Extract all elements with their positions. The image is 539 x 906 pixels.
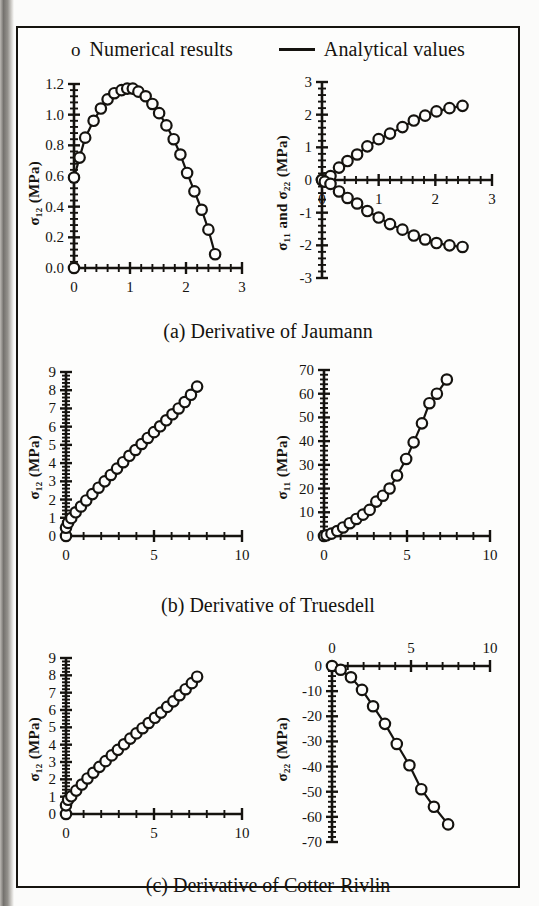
- x-tick-label: 0: [62, 547, 70, 563]
- data-point-marker: [442, 374, 452, 384]
- x-tick-label: 2: [432, 191, 440, 207]
- y-tick-label: 0: [315, 658, 323, 674]
- chart-panel-a-right: σ₁₁ and σ₂₂ (MPa) -3-2-101230123: [270, 66, 518, 320]
- data-point-marker: [362, 206, 372, 216]
- plot-a-left: 0.00.20.40.60.81.01.20123: [40, 66, 252, 324]
- x-tick-label: 5: [407, 640, 415, 656]
- data-point-marker: [392, 470, 402, 480]
- y-tick-label: 4: [49, 737, 57, 753]
- data-point-marker: [182, 168, 192, 178]
- y-tick-label: 2: [305, 107, 313, 123]
- y-tick-label: -30: [302, 733, 322, 749]
- data-point-marker: [352, 149, 362, 159]
- legend-entry-analytical: Analytical values: [279, 38, 465, 61]
- data-point-marker: [154, 108, 164, 118]
- y-tick-label: 20: [299, 481, 314, 497]
- figure-frame: o Numerical results Analytical values σ₁…: [16, 26, 520, 888]
- y-tick-label: 8: [49, 667, 57, 683]
- y-tick-label: 9: [49, 650, 57, 666]
- plot-b-left: 01234567890510: [40, 340, 252, 598]
- y-tick-label: 4: [49, 455, 57, 471]
- solid-line-marker-icon: [279, 48, 315, 51]
- x-tick-label: 10: [483, 640, 498, 656]
- y-tick-label: 0.2: [45, 229, 64, 245]
- plot-a-right: -3-2-101230123: [288, 66, 500, 324]
- data-point-marker: [368, 701, 378, 711]
- y-tick-label: -50: [302, 784, 322, 800]
- data-point-marker: [380, 719, 390, 729]
- data-point-marker: [397, 122, 407, 132]
- data-point-marker: [342, 156, 352, 166]
- y-tick-label: -3: [300, 270, 313, 286]
- x-tick-label: 5: [150, 547, 158, 563]
- y-tick-label: 1.2: [45, 76, 64, 92]
- y-tick-label: 0: [305, 172, 313, 188]
- data-point-marker: [384, 483, 394, 493]
- x-tick-label: 10: [483, 547, 498, 563]
- data-point-marker: [401, 454, 411, 464]
- data-point-marker: [335, 665, 345, 675]
- chart-svg-c-left: 01234567890510: [40, 622, 252, 876]
- plot-b-right: 0102030405060700510: [288, 340, 500, 598]
- data-point-marker: [352, 198, 362, 208]
- x-tick-label: 0: [62, 825, 70, 841]
- panel-row-a: σ₁₂ (MPa) 0.00.20.40.60.81.01.20123 σ₁₁ …: [18, 66, 518, 320]
- y-tick-label: -1: [300, 205, 313, 221]
- x-tick-label: 3: [238, 279, 246, 295]
- scan-edge-artifact: [0, 0, 14, 906]
- y-tick-label: 5: [49, 437, 57, 453]
- y-tick-label: 0.4: [45, 199, 64, 215]
- chart-panel-c-left: σ₁₂ (MPa) 01234567890510: [22, 622, 270, 876]
- data-point-marker: [362, 141, 372, 151]
- y-tick-label: -20: [302, 708, 322, 724]
- panel-row-b: σ₁₂ (MPa) 01234567890510 σ₁₁ (MPa) 01020…: [18, 340, 518, 594]
- x-tick-label: 10: [235, 825, 250, 841]
- chart-panel-b-left: σ₁₂ (MPa) 01234567890510: [22, 340, 270, 594]
- x-tick-label: 1: [375, 191, 383, 207]
- data-point-marker: [409, 115, 419, 125]
- y-tick-label: 1: [305, 139, 313, 155]
- x-tick-label: 5: [150, 825, 158, 841]
- y-tick-label: 70: [299, 362, 314, 378]
- caption-b: (b) Derivative of Truesdell: [18, 594, 518, 617]
- data-point-marker: [420, 234, 430, 244]
- data-point-marker: [431, 238, 441, 248]
- chart-panel-a-left: σ₁₂ (MPa) 0.00.20.40.60.81.01.20123: [22, 66, 270, 320]
- y-tick-label: 6: [49, 419, 57, 435]
- chart-svg-b-right: 0102030405060700510: [288, 340, 500, 594]
- caption-c: (c) Derivative of Cotter-Rivlin: [18, 874, 518, 897]
- data-point-marker: [457, 242, 467, 252]
- y-tick-label: 0: [307, 528, 315, 544]
- data-point-marker: [424, 398, 434, 408]
- chart-panel-b-right: σ₁₁ (MPa) 0102030405060700510: [270, 340, 518, 594]
- chart-svg-a-right: -3-2-101230123: [288, 66, 500, 320]
- y-tick-label: 7: [49, 685, 57, 701]
- x-tick-label: 0: [328, 640, 336, 656]
- y-tick-label: 9: [49, 364, 57, 380]
- data-point-marker: [373, 212, 383, 222]
- data-point-marker: [161, 120, 171, 130]
- y-tick-label: -40: [302, 759, 322, 775]
- data-point-marker: [357, 685, 367, 695]
- data-point-marker: [429, 802, 439, 812]
- data-point-marker: [88, 116, 98, 126]
- data-point-marker: [409, 230, 419, 240]
- y-tick-label: 0: [49, 528, 57, 544]
- data-point-marker: [74, 152, 84, 162]
- open-circle-marker-icon: o: [71, 40, 81, 59]
- plot-c-right: -70-60-50-40-30-20-1000510: [288, 622, 500, 880]
- data-point-marker: [175, 149, 185, 159]
- y-tick-label: 30: [299, 457, 314, 473]
- x-tick-label: 1: [126, 279, 134, 295]
- y-tick-label: 1: [49, 789, 57, 805]
- analytical-curve: [332, 666, 448, 824]
- x-tick-label: 0: [318, 191, 326, 207]
- data-point-marker: [392, 739, 402, 749]
- data-point-marker: [443, 819, 453, 829]
- x-tick-label: 0: [320, 547, 328, 563]
- legend-label-numerical: Numerical results: [90, 38, 233, 61]
- data-point-marker: [457, 101, 467, 111]
- y-tick-label: 0.0: [45, 260, 64, 276]
- y-tick-label: 8: [49, 382, 57, 398]
- data-point-marker: [431, 106, 441, 116]
